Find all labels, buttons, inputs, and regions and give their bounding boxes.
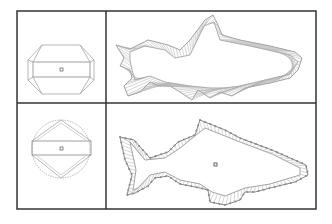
hatch-line — [125, 76, 150, 85]
sample-point — [305, 165, 307, 167]
sample-point — [165, 152, 167, 154]
hatch-line — [200, 121, 203, 130]
sample-point — [208, 194, 210, 196]
sample-point — [124, 158, 126, 160]
hatch-line — [192, 38, 193, 50]
sample-point — [284, 183, 286, 185]
hatch-line — [290, 178, 294, 182]
sample-point — [146, 153, 148, 155]
hatch-line — [283, 158, 291, 159]
sample-point — [265, 147, 267, 149]
outer-border — [17, 11, 316, 209]
sample-point — [257, 190, 259, 192]
sample-point — [190, 185, 192, 187]
fish-morph-top — [116, 15, 302, 100]
hatch-line — [228, 82, 257, 94]
hatch-line — [179, 180, 181, 183]
sample-point — [137, 190, 139, 192]
hatch-line — [260, 147, 264, 149]
sample-point — [149, 157, 151, 159]
sample-point — [225, 129, 227, 131]
sample-point — [281, 153, 283, 155]
hatch-line — [182, 48, 184, 56]
sample-point — [230, 132, 232, 134]
sample-point — [183, 139, 185, 141]
hatch-line — [132, 177, 135, 178]
sample-point — [193, 134, 195, 136]
sample-point — [220, 127, 222, 129]
hatch-line — [280, 157, 287, 158]
sample-point — [296, 160, 298, 162]
center-marker — [60, 147, 63, 150]
hatch-line — [198, 125, 200, 132]
hatch-line — [254, 186, 255, 192]
sample-point — [175, 180, 177, 182]
hatch-line — [187, 182, 188, 186]
hatch-line — [183, 181, 184, 185]
hatch-line — [123, 149, 133, 152]
hatch-line — [121, 66, 133, 72]
hatch-line — [169, 175, 171, 176]
sample-point — [246, 191, 248, 193]
hatch-line — [231, 81, 259, 95]
sample-point — [214, 125, 216, 127]
center-marker — [60, 68, 63, 71]
hatch-line — [214, 194, 218, 203]
hatch-line — [294, 177, 299, 180]
sample-point — [274, 186, 276, 188]
sample-point — [128, 168, 130, 170]
sample-point — [213, 202, 215, 204]
sample-point — [170, 148, 172, 150]
sample-point — [147, 185, 149, 187]
sample-point — [300, 178, 302, 180]
sample-point — [127, 189, 129, 191]
hatch-line — [218, 127, 219, 133]
sample-point — [160, 153, 162, 155]
hatch-line — [230, 194, 231, 204]
sample-point — [196, 186, 198, 188]
hatch-line — [246, 141, 248, 144]
hatch-line — [181, 141, 183, 146]
sample-point — [188, 136, 190, 138]
hatch-line — [250, 187, 252, 192]
sample-point — [154, 177, 156, 179]
sample-point — [279, 185, 281, 187]
hatch-line — [176, 48, 178, 57]
hatch-line — [220, 39, 236, 40]
sample-point — [142, 188, 144, 190]
sample-point — [126, 194, 128, 196]
figure-canvas — [0, 0, 332, 224]
sample-point — [132, 193, 134, 195]
sample-point — [178, 141, 180, 143]
hatch-line — [185, 45, 187, 55]
hatch-line — [122, 145, 132, 149]
hatch-line — [190, 40, 192, 52]
sample-point — [245, 139, 247, 141]
fish-morph-bottom — [119, 119, 308, 206]
sample-point — [126, 163, 128, 165]
sample-point — [234, 201, 236, 203]
sample-point — [260, 145, 262, 147]
sample-point — [197, 124, 199, 126]
center-marker — [214, 163, 217, 166]
hatch-line — [277, 182, 279, 186]
hatch-line — [222, 196, 224, 205]
hatch-line — [153, 157, 158, 159]
sample-point — [224, 204, 226, 206]
sample-point — [160, 176, 162, 178]
sample-point — [185, 184, 187, 186]
sample-point — [135, 141, 137, 143]
sample-point — [179, 183, 181, 185]
sample-point — [229, 202, 231, 204]
hatch-line — [172, 148, 174, 152]
sample-point — [250, 141, 252, 143]
hatch-line — [234, 81, 262, 95]
sample-point — [124, 137, 126, 139]
sample-point — [121, 147, 123, 149]
sample-point — [204, 121, 206, 123]
sample-point — [170, 177, 172, 179]
sample-point — [268, 187, 270, 189]
sample-point — [120, 141, 122, 143]
sample-point — [291, 158, 293, 160]
sample-point — [119, 136, 121, 138]
